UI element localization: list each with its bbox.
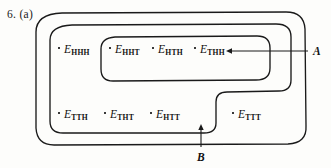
sample-point-dot — [104, 112, 106, 114]
outcome-label-E-THT: ETHT — [110, 109, 134, 121]
sample-point-dot — [109, 47, 111, 49]
set-a-boundary — [101, 36, 270, 81]
outcome-label-E-TTT: ETTT — [238, 109, 261, 121]
b-leader-line — [198, 124, 203, 147]
sample-point-dot — [194, 47, 196, 49]
sample-point-dot — [58, 112, 60, 114]
sample-point-dot — [58, 47, 60, 49]
figure-number: 6. (a) — [7, 8, 33, 20]
outcome-label-E-HHH: EHHH — [64, 44, 89, 56]
set-label-a: A — [313, 45, 321, 57]
set-label-b: B — [197, 151, 205, 163]
outcome-label-E-HTT: EHTT — [156, 109, 180, 121]
outcome-label-E-THH: ETHH — [200, 44, 225, 56]
sample-point-dot — [152, 47, 154, 49]
sample-point-dot — [232, 112, 234, 114]
figure-container: 6. (a) EHHH EHHT EHTH ETHH ETTH ETHT EHT… — [0, 0, 331, 168]
sample-point-dot — [150, 112, 152, 114]
outcome-label-E-HTH: EHTH — [158, 44, 183, 56]
set-boundaries — [0, 0, 331, 168]
outcome-label-E-HHT: EHHT — [115, 44, 140, 56]
a-leader-line — [226, 48, 308, 54]
outcome-label-E-TTH: ETTH — [64, 109, 88, 121]
